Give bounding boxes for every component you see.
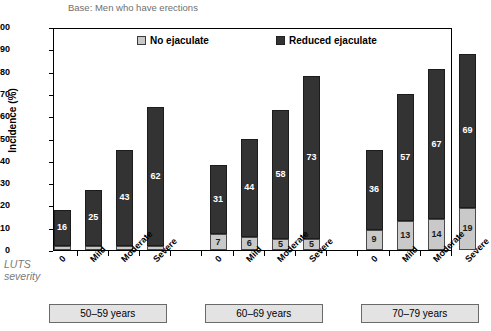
bar-segment-reduced-ejaculate: 69 [459, 54, 476, 208]
bar-segment-reduced-ejaculate: 16 [54, 210, 71, 246]
bar-60–69-years-moderate[interactable]: 585 [272, 110, 289, 250]
y-tick-label: 100 [0, 23, 10, 32]
age-group-box-1: 50–59 years [49, 304, 167, 323]
bar-value-label: 25 [88, 213, 98, 222]
bar-segment-reduced-ejaculate: 44 [241, 139, 258, 237]
x-category-label: 0 [213, 253, 224, 264]
x-tick-mark [201, 251, 202, 256]
y-tick-label: 70 [0, 90, 10, 99]
x-tick-mark [357, 251, 358, 256]
bar-60–69-years-severe[interactable]: 735 [303, 76, 320, 250]
luts-severity-label: LUTS severity [4, 258, 40, 282]
luts-line-2: severity [4, 270, 40, 282]
bar-value-label: 6 [247, 239, 252, 248]
bar-70–79-years-severe[interactable]: 6919 [459, 54, 476, 250]
bar-50–59-years-mild[interactable]: 25 [85, 190, 102, 250]
bar-value-label: 16 [57, 223, 67, 232]
x-tick-mark [108, 251, 109, 256]
bar-segment-reduced-ejaculate: 36 [366, 150, 383, 230]
age-group-box-2: 60–69 years [205, 304, 323, 323]
bar-value-label: 36 [369, 185, 379, 194]
bar-70–79-years-0[interactable]: 369 [366, 150, 383, 250]
bar-value-label: 57 [400, 153, 410, 162]
legend-swatch-icon-reduced-ejaculate [276, 36, 285, 45]
y-tick-label: 0 [0, 246, 10, 255]
y-tick-mark [49, 251, 53, 252]
y-tick-label: 90 [0, 45, 10, 54]
legend: No ejaculate Reduced ejaculate [54, 29, 453, 49]
x-tick-mark [264, 251, 265, 256]
x-tick-mark [233, 251, 234, 256]
bar-segment-reduced-ejaculate: 62 [147, 107, 164, 245]
y-tick-label: 10 [0, 224, 10, 233]
legend-label-no-ejaculate: No ejaculate [150, 35, 209, 46]
bar-value-label: 13 [400, 231, 410, 240]
bar-segment-reduced-ejaculate: 67 [428, 69, 445, 218]
bar-value-label: 44 [244, 183, 254, 192]
bar-segment-no-ejaculate [54, 246, 71, 250]
x-tick-mark [77, 251, 78, 256]
base-note: Base: Men who have erections [68, 2, 198, 13]
y-tick-label: 40 [0, 157, 10, 166]
bar-value-label: 58 [275, 170, 285, 179]
bar-70–79-years-mild[interactable]: 5713 [397, 94, 414, 250]
bar-segment-reduced-ejaculate: 58 [272, 110, 289, 239]
bar-segment-no-ejaculate: 9 [366, 230, 383, 250]
bar-segment-reduced-ejaculate: 43 [116, 150, 133, 246]
legend-swatch-icon-no-ejaculate [137, 36, 146, 45]
age-group-label: 70–79 years [392, 308, 447, 319]
bar-segment-no-ejaculate: 19 [459, 208, 476, 250]
luts-line-1: LUTS [4, 258, 40, 270]
age-group-label: 50–59 years [80, 308, 135, 319]
bar-70–79-years-moderate[interactable]: 6714 [428, 69, 445, 250]
bar-value-label: 5 [278, 240, 283, 249]
x-tick-mark [389, 251, 390, 256]
bar-60–69-years-mild[interactable]: 446 [241, 139, 258, 251]
age-group-label: 60–69 years [236, 308, 291, 319]
bar-value-label: 31 [213, 195, 223, 204]
x-tick-mark [420, 251, 421, 256]
bar-50–59-years-moderate[interactable]: 43 [116, 150, 133, 250]
y-tick-label: 20 [0, 201, 10, 210]
bar-50–59-years-severe[interactable]: 62 [147, 107, 164, 250]
y-tick-label: 60 [0, 112, 10, 121]
plot-area: No ejaculate Reduced ejaculate 162543623… [53, 28, 452, 251]
bar-value-label: 73 [307, 153, 317, 162]
bar-value-label: 9 [371, 235, 376, 244]
bar-segment-no-ejaculate: 7 [210, 234, 227, 250]
bar-value-label: 14 [431, 230, 441, 239]
bar-value-label: 7 [215, 238, 220, 247]
y-tick-label: 30 [0, 179, 10, 188]
x-tick-mark [139, 251, 140, 256]
bar-segment-reduced-ejaculate: 57 [397, 94, 414, 221]
bar-value-label: 5 [309, 240, 314, 249]
bar-value-label: 69 [463, 126, 473, 135]
y-tick-label: 80 [0, 68, 10, 77]
bar-value-label: 62 [151, 172, 161, 181]
x-category-label: 0 [369, 253, 380, 264]
bar-value-label: 43 [119, 193, 129, 202]
legend-item-reduced-ejaculate: Reduced ejaculate [276, 35, 377, 46]
bar-segment-reduced-ejaculate: 31 [210, 165, 227, 234]
age-group-box-3: 70–79 years [361, 304, 479, 323]
bar-60–69-years-0[interactable]: 317 [210, 165, 227, 250]
x-tick-mark [451, 251, 452, 256]
bar-segment-reduced-ejaculate: 25 [85, 190, 102, 246]
y-tick-label: 50 [0, 135, 10, 144]
x-category-label: 0 [57, 253, 68, 264]
legend-label-reduced-ejaculate: Reduced ejaculate [289, 35, 377, 46]
bar-segment-reduced-ejaculate: 73 [303, 76, 320, 239]
bar-50–59-years-0[interactable]: 16 [54, 210, 71, 250]
bar-value-label: 19 [463, 224, 473, 233]
bar-value-label: 67 [431, 140, 441, 149]
legend-item-no-ejaculate: No ejaculate [137, 35, 209, 46]
x-tick-mark [295, 251, 296, 256]
